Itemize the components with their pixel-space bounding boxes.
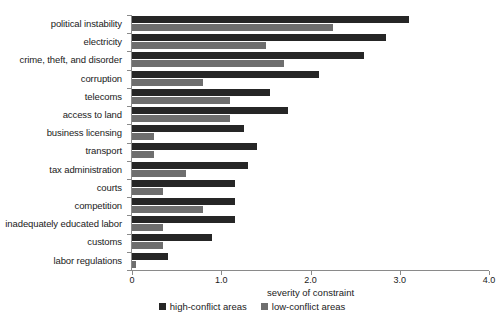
x-axis-tick-label: 4.0 <box>483 275 496 285</box>
x-axis-tick-label: 0 <box>129 275 134 285</box>
bar-high-conflict <box>132 89 270 96</box>
category-label: access to land <box>0 106 126 124</box>
x-axis-tick-label: 3.0 <box>393 275 406 285</box>
bar-low-conflict <box>132 133 154 140</box>
bar-low-conflict <box>132 97 230 104</box>
bar-high-conflict <box>132 34 386 41</box>
category-axis-labels: political instabilityelectricitycrime, t… <box>0 15 126 270</box>
bar-low-conflict <box>132 206 203 213</box>
bar-high-conflict <box>132 253 168 260</box>
bar-high-conflict <box>132 162 248 169</box>
bar-low-conflict <box>132 242 163 249</box>
category-label: customs <box>0 233 126 251</box>
bar-high-conflict <box>132 234 212 241</box>
legend-label: high-conflict areas <box>170 301 247 312</box>
bar-group <box>132 252 489 270</box>
bar-low-conflict <box>132 115 230 122</box>
plot-area <box>132 15 489 270</box>
bar-high-conflict <box>132 52 364 59</box>
bar-low-conflict <box>132 79 203 86</box>
category-label: inadequately educated labor <box>0 215 126 233</box>
bar-high-conflict <box>132 216 235 223</box>
bar-high-conflict <box>132 71 319 78</box>
bar-group <box>132 106 489 124</box>
bar-high-conflict <box>132 198 235 205</box>
category-label: transport <box>0 142 126 160</box>
bar-group <box>132 142 489 160</box>
bar-high-conflict <box>132 143 257 150</box>
legend-item: low-conflict areas <box>261 301 345 312</box>
x-axis-tick-label: 1.0 <box>215 275 228 285</box>
bar-group <box>132 51 489 69</box>
bar-group <box>132 197 489 215</box>
legend-swatch-icon <box>261 303 268 310</box>
bar-low-conflict <box>132 261 136 268</box>
bar-group <box>132 15 489 33</box>
category-label: political instability <box>0 15 126 33</box>
category-label: electricity <box>0 33 126 51</box>
bar-group <box>132 161 489 179</box>
legend-swatch-icon <box>159 303 166 310</box>
bar-low-conflict <box>132 151 154 158</box>
bar-group <box>132 88 489 106</box>
bar-low-conflict <box>132 188 163 195</box>
category-label: business licensing <box>0 124 126 142</box>
bar-group <box>132 70 489 88</box>
bar-low-conflict <box>132 224 163 231</box>
bar-high-conflict <box>132 125 244 132</box>
category-label: telecoms <box>0 88 126 106</box>
bar-group <box>132 233 489 251</box>
x-axis-title: severity of constraint <box>132 287 489 298</box>
bar-group <box>132 33 489 51</box>
bar-chart: political instabilityelectricitycrime, t… <box>0 0 504 318</box>
bar-low-conflict <box>132 24 333 31</box>
x-axis-tick-label: 2.0 <box>304 275 317 285</box>
category-label: crime, theft, and disorder <box>0 51 126 69</box>
bar-low-conflict <box>132 60 284 67</box>
bar-group <box>132 124 489 142</box>
legend-label: low-conflict areas <box>272 301 345 312</box>
category-label: competition <box>0 197 126 215</box>
bar-group <box>132 179 489 197</box>
category-label: courts <box>0 179 126 197</box>
bar-low-conflict <box>132 170 186 177</box>
bar-high-conflict <box>132 107 288 114</box>
x-axis-tick-labels: 01.02.03.04.0 <box>132 275 489 287</box>
category-label: labor regulations <box>0 252 126 270</box>
chart-legend: high-conflict areaslow-conflict areas <box>0 301 504 312</box>
bar-group <box>132 215 489 233</box>
legend-item: high-conflict areas <box>159 301 247 312</box>
category-label: tax administration <box>0 161 126 179</box>
bar-high-conflict <box>132 180 235 187</box>
bar-high-conflict <box>132 16 409 23</box>
category-label: corruption <box>0 70 126 88</box>
bar-low-conflict <box>132 42 266 49</box>
